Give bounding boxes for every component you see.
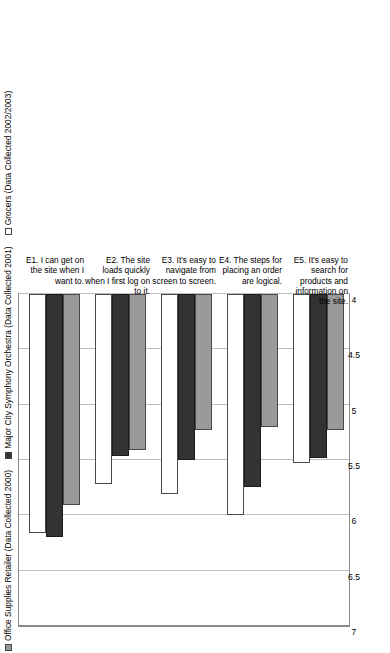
axis-tick-label: 6	[352, 516, 357, 526]
legend-item-symphony-orchestra: Major City Symphony Orchestra (Data Coll…	[4, 246, 12, 458]
category-axis-labels: E1. I can get on the site when I want to…	[18, 253, 348, 293]
axis-tick-label: 4	[352, 295, 357, 305]
legend-item-office-supplies-retailer: Office Supplies Retailer (Data Collected…	[4, 470, 12, 651]
value-axis-tick-labels: 76.565.554.54	[350, 295, 370, 627]
bar	[310, 294, 327, 458]
plot-area	[18, 293, 350, 627]
bar	[29, 294, 46, 533]
legend-label: Grocers (Data Collected 2002/2003)	[4, 91, 12, 226]
bar	[129, 294, 146, 450]
category-label-text: E4. The steps for placing an order are l…	[216, 255, 282, 286]
legend-label: Major City Symphony Orchestra (Data Coll…	[4, 246, 12, 448]
legend-label: Office Supplies Retailer (Data Collected…	[4, 470, 12, 641]
bar-group	[151, 294, 217, 626]
legend-swatch-icon	[5, 644, 12, 651]
bar	[112, 294, 129, 456]
bar	[161, 294, 178, 494]
category-label-text: E2. The site loads quickly when I first …	[84, 255, 150, 296]
chart-stage: Office Supplies Retailer (Data Collected…	[0, 0, 390, 653]
bar	[46, 294, 63, 537]
axis-tick-label: 5	[352, 406, 357, 416]
legend-swatch-icon	[5, 452, 12, 459]
category-label-text: E1. I can get on the site when I want to…	[18, 255, 84, 286]
bar	[244, 294, 261, 487]
bar	[178, 294, 195, 460]
axis-tick-label: 6.5	[348, 572, 360, 582]
bar-group	[19, 294, 85, 626]
bar	[63, 294, 80, 505]
bar	[261, 294, 278, 427]
axis-tick-label: 5.5	[348, 461, 360, 471]
axis-tick-label: 4.5	[348, 350, 360, 360]
bar	[293, 294, 310, 463]
bar-group	[217, 294, 283, 626]
bar	[195, 294, 212, 430]
chart-legend: Office Supplies Retailer (Data Collected…	[4, 91, 12, 651]
bar-chart-figure: Office Supplies Retailer (Data Collected…	[0, 0, 390, 653]
bar	[327, 294, 344, 430]
bar	[95, 294, 112, 484]
category-label-text: E3. It's easy to navigate from screen to…	[150, 255, 216, 286]
bar-group	[85, 294, 151, 626]
bar	[227, 294, 244, 515]
bar-group	[283, 294, 349, 626]
category-label-text: E5. It's easy to search for products and…	[282, 255, 348, 307]
legend-swatch-icon	[5, 228, 12, 235]
legend-item-grocers: Grocers (Data Collected 2002/2003)	[4, 91, 12, 236]
axis-tick-label: 7	[352, 627, 357, 637]
